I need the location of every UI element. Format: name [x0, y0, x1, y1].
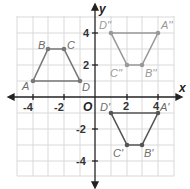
y-tick: 2: [83, 59, 89, 71]
vertex-label: B: [38, 39, 45, 51]
vertex-label: A: [21, 80, 29, 92]
vertex-label: A': [159, 101, 170, 113]
x-tick: -4: [23, 101, 34, 113]
vertex-label: C': [113, 147, 124, 159]
vertex-label: D'': [99, 19, 112, 31]
origin-label: O: [83, 100, 93, 114]
y-tick: -2: [76, 123, 86, 135]
vertex-label: B'': [145, 67, 157, 79]
vertex-label: C: [67, 39, 75, 51]
y-tick: -4: [76, 155, 87, 167]
vertex-label: D': [100, 101, 111, 113]
vertex-label: C'': [110, 67, 123, 79]
y-tick: 4: [83, 27, 90, 39]
axes: [8, 4, 182, 188]
x-axis-label: x: [178, 81, 187, 95]
coordinate-plane: y x O -4 -2 2 4 4 2 -2 -4 A B C D A' B' …: [0, 0, 190, 189]
vertex-label: B': [144, 147, 154, 159]
x-tick: 2: [123, 100, 129, 112]
vertex-label: A'': [160, 19, 173, 31]
x-tick: -2: [54, 101, 64, 113]
y-axis-label: y: [98, 2, 107, 16]
vertex-label: D: [82, 81, 90, 93]
x-tick: 4: [153, 100, 160, 112]
